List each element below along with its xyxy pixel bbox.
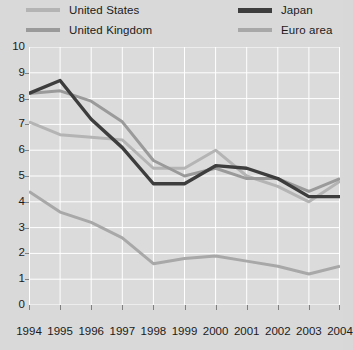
x-tick-mark: [29, 305, 30, 310]
plot-svg: [29, 47, 340, 305]
x-tick-mark: [247, 305, 248, 310]
x-tick-label: 1999: [172, 326, 198, 338]
x-tick-label: 2000: [203, 326, 229, 338]
x-tick-label: 2003: [296, 326, 322, 338]
x-tick-label: 2002: [265, 326, 291, 338]
x-tick-mark: [278, 305, 279, 310]
legend-item-euro-area[interactable]: Euro area: [238, 23, 332, 37]
legend-item-united-states[interactable]: United States: [26, 3, 139, 17]
x-tick-mark: [185, 305, 186, 310]
x-tick-label: 1998: [141, 326, 167, 338]
legend-item-united-kingdom[interactable]: United Kingdom: [26, 23, 152, 37]
x-tick-label: 1996: [78, 326, 104, 338]
legend-label-euro-area: Euro area: [281, 24, 332, 36]
x-tick-mark: [339, 305, 340, 310]
legend-label-japan: Japan: [281, 4, 313, 16]
x-tick-mark: [309, 305, 310, 310]
x-tick-mark: [122, 305, 123, 310]
legend-swatch-euro-area: [238, 28, 272, 32]
x-tick-label: 1995: [47, 326, 73, 338]
legend-item-japan[interactable]: Japan: [238, 3, 313, 17]
x-axis-labels: 1994199519961997199819992000200120022003…: [29, 326, 340, 344]
chart-legend: United States United Kingdom Japan Euro …: [0, 0, 343, 42]
x-tick-label: 1997: [110, 326, 136, 338]
x-tick-label: 1994: [16, 326, 42, 338]
legend-label-united-kingdom: United Kingdom: [69, 24, 152, 36]
y-tick-label: 10: [12, 41, 25, 53]
legend-swatch-united-states: [26, 8, 60, 12]
legend-label-united-states: United States: [69, 4, 139, 16]
x-tick-label: 2001: [234, 326, 260, 338]
legend-swatch-united-kingdom: [26, 28, 60, 32]
legend-swatch-japan: [238, 8, 272, 13]
x-tick-label: 2004: [327, 326, 353, 338]
x-tick-mark: [153, 305, 154, 310]
x-axis-ticks: [29, 305, 340, 311]
x-tick-mark: [91, 305, 92, 310]
x-tick-mark: [60, 305, 61, 310]
plot-area: [29, 47, 340, 305]
y-axis-labels: 012345678910: [0, 47, 25, 305]
x-tick-mark: [216, 305, 217, 310]
